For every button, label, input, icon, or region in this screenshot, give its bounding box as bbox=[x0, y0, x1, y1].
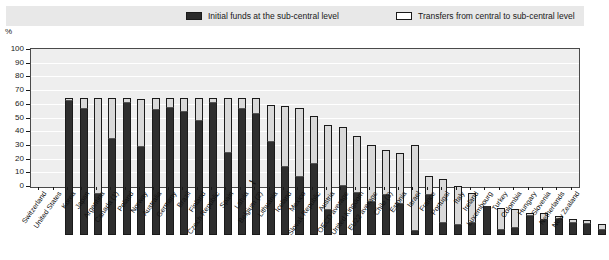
y-tick-label: 20 bbox=[15, 155, 24, 163]
legend-swatch-initial-funds bbox=[186, 12, 202, 20]
legend-swatch-transfers bbox=[396, 12, 412, 20]
bar-segment-transfers bbox=[310, 116, 318, 164]
y-tick-label: 30 bbox=[15, 141, 24, 149]
bar-segment-transfers bbox=[252, 98, 260, 114]
y-axis: 0102030405060708090100 bbox=[0, 48, 30, 187]
y-tick-label: 40 bbox=[15, 127, 24, 135]
y-tick-label: 0 bbox=[20, 182, 24, 190]
bar-segment-initial-funds bbox=[583, 224, 591, 235]
bar-segment-transfers bbox=[137, 99, 145, 147]
bar-segment-transfers bbox=[339, 127, 347, 186]
y-tick-label: 90 bbox=[15, 59, 24, 67]
plot-area bbox=[30, 48, 580, 188]
bar-column[interactable] bbox=[598, 224, 606, 235]
bar-segment-transfers bbox=[295, 108, 303, 178]
bar-segment-transfers bbox=[108, 98, 116, 139]
bar-segment-initial-funds bbox=[598, 230, 606, 235]
legend-entry-transfers: Transfers from central to sub-central le… bbox=[396, 6, 575, 26]
y-tick-label: 60 bbox=[15, 100, 24, 108]
y-tick-label: 80 bbox=[15, 72, 24, 80]
bar-segment-transfers bbox=[281, 106, 289, 166]
bar-segment-transfers bbox=[267, 105, 275, 142]
bar-segment-transfers bbox=[152, 98, 160, 110]
y-axis-unit-label: % bbox=[5, 27, 12, 36]
legend-label-transfers: Transfers from central to sub-central le… bbox=[418, 12, 575, 21]
bar-segment-transfers bbox=[94, 98, 102, 194]
bar-segment-transfers bbox=[238, 98, 246, 109]
y-tick-label: 10 bbox=[15, 168, 24, 176]
legend-label-initial-funds: Initial funds at the sub-central level bbox=[208, 12, 339, 21]
gridline bbox=[31, 90, 579, 91]
bar-segment-transfers bbox=[166, 98, 174, 108]
gridline bbox=[31, 63, 579, 64]
x-axis-label: Spain bbox=[219, 190, 235, 209]
x-axis-labels: SwitzerlandUnited StatesKoreaJapanArgent… bbox=[31, 190, 578, 260]
gridline bbox=[31, 76, 579, 77]
bar-segment-transfers bbox=[180, 98, 188, 112]
y-tick-label: 50 bbox=[15, 114, 24, 122]
bar-column[interactable] bbox=[583, 220, 591, 235]
bar-segment-transfers bbox=[80, 98, 88, 109]
y-tick-label: 70 bbox=[15, 86, 24, 94]
bar-segment-transfers bbox=[195, 98, 203, 121]
bar-segment-transfers bbox=[353, 136, 361, 192]
chart-legend: Initial funds at the sub-central level T… bbox=[6, 6, 584, 26]
legend-entry-initial-funds: Initial funds at the sub-central level bbox=[186, 6, 339, 26]
y-tick-label: 100 bbox=[11, 45, 24, 53]
bar-segment-transfers bbox=[224, 98, 232, 153]
